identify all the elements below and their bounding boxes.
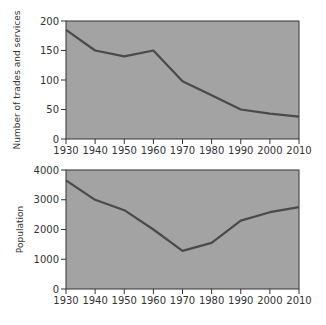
y-axis-title: Population — [15, 206, 25, 253]
x-tick-label: 1970 — [170, 295, 195, 306]
x-tick-label: 1980 — [199, 145, 224, 156]
y-tick-label: 0 — [53, 134, 59, 145]
y-tick-label: 200 — [40, 16, 59, 27]
x-tick-label: 1950 — [112, 145, 137, 156]
y-tick-label: 0 — [53, 284, 59, 295]
x-tick-label: 1940 — [82, 295, 107, 306]
x-tick-label: 1930 — [53, 145, 78, 156]
y-tick-label: 2000 — [34, 224, 59, 235]
y-axis-title: Number of trades and services — [12, 10, 22, 149]
x-tick-label: 1960 — [141, 295, 166, 306]
x-tick-label: 1940 — [82, 145, 107, 156]
chart-figure: 0501001502001930194019501960197019801990… — [0, 0, 326, 325]
x-tick-label: 1930 — [53, 295, 78, 306]
x-tick-label: 2010 — [286, 295, 311, 306]
x-tick-label: 1980 — [199, 295, 224, 306]
trades-services-chart: 0501001502001930194019501960197019801990… — [12, 10, 312, 156]
y-tick-label: 50 — [46, 104, 59, 115]
x-tick-label: 1970 — [170, 145, 195, 156]
x-tick-label: 1990 — [228, 295, 253, 306]
x-tick-label: 2010 — [286, 145, 311, 156]
y-tick-label: 3000 — [34, 194, 59, 205]
x-tick-label: 2000 — [257, 145, 282, 156]
x-tick-label: 1960 — [141, 145, 166, 156]
y-tick-label: 100 — [40, 75, 59, 86]
x-tick-label: 1990 — [228, 145, 253, 156]
x-tick-label: 2000 — [257, 295, 282, 306]
x-tick-label: 1950 — [112, 295, 137, 306]
y-tick-label: 4000 — [34, 165, 59, 176]
y-tick-label: 1000 — [34, 254, 59, 265]
y-tick-label: 150 — [40, 45, 59, 56]
population-chart: 0100020003000400019301940195019601970198… — [15, 165, 312, 307]
plot-area — [66, 170, 299, 289]
